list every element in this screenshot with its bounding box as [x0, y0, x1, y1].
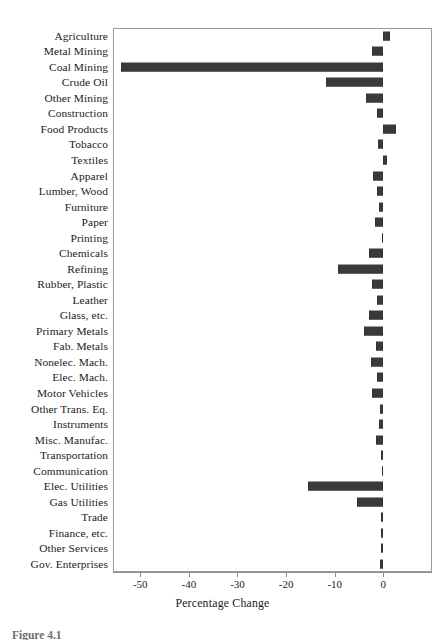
- bar: [376, 435, 384, 444]
- category-label: Rubber, Plastic: [37, 278, 108, 290]
- bar: [375, 218, 384, 227]
- category-label: Nonelec. Mach.: [34, 356, 108, 368]
- bar-row: Rubber, Plastic: [0, 277, 445, 293]
- bar-row: Crude Oil: [0, 75, 445, 91]
- category-label: Other Services: [39, 542, 108, 554]
- bar-row: Construction: [0, 106, 445, 122]
- bar: [366, 93, 383, 102]
- bar-row: Other Services: [0, 541, 445, 557]
- bar-row: Transportation: [0, 447, 445, 463]
- category-label: Other Trans. Eq.: [31, 402, 108, 414]
- bar: [381, 513, 383, 522]
- x-tick-label: -30: [230, 578, 245, 590]
- category-label: Elec. Mach.: [52, 371, 108, 383]
- bar: [377, 187, 383, 196]
- bar: [121, 62, 383, 71]
- category-label: Metal Mining: [44, 45, 108, 57]
- bar-row: Lumber, Wood: [0, 183, 445, 199]
- category-label: Communication: [33, 464, 108, 476]
- bar: [380, 559, 383, 568]
- bar: [357, 497, 384, 506]
- x-tick: [335, 572, 336, 577]
- bar-row: Communication: [0, 463, 445, 479]
- bar-row: Elec. Utilities: [0, 478, 445, 494]
- bar: [369, 311, 383, 320]
- bar: [376, 342, 383, 351]
- category-label: Apparel: [71, 169, 108, 181]
- bar-row: Furniture: [0, 199, 445, 215]
- bar: [379, 202, 384, 211]
- bar: [383, 31, 389, 40]
- category-label: Chemicals: [59, 247, 108, 259]
- x-axis-title: Percentage Change: [0, 596, 445, 611]
- bar: [381, 544, 383, 553]
- bar-row: Tobacco: [0, 137, 445, 153]
- bar: [381, 451, 383, 460]
- bar: [382, 233, 384, 242]
- category-label: Other Mining: [44, 92, 108, 104]
- bar-row: Other Mining: [0, 90, 445, 106]
- category-label: Gas Utilities: [49, 495, 108, 507]
- category-label: Crude Oil: [62, 76, 108, 88]
- x-tick: [237, 572, 238, 577]
- x-tick-label: -50: [133, 578, 148, 590]
- bar-row: Metal Mining: [0, 44, 445, 60]
- x-tick-label: -40: [182, 578, 197, 590]
- bar-row: Textiles: [0, 152, 445, 168]
- category-label: Furniture: [65, 200, 108, 212]
- bar-row: Finance, etc.: [0, 525, 445, 541]
- category-label: Agriculture: [54, 30, 108, 42]
- figure-container: AgricultureMetal MiningCoal MiningCrude …: [0, 0, 445, 640]
- category-label: Leather: [73, 294, 108, 306]
- bar-row: Food Products: [0, 121, 445, 137]
- category-label: Refining: [67, 262, 108, 274]
- bar: [377, 295, 384, 304]
- bar-row: Primary Metals: [0, 323, 445, 339]
- x-tick: [140, 572, 141, 577]
- bar: [383, 124, 395, 133]
- figure-caption: Figure 4.1: [12, 629, 62, 640]
- bar: [371, 357, 384, 366]
- x-tick: [383, 572, 384, 577]
- bar-rows: AgricultureMetal MiningCoal MiningCrude …: [0, 28, 445, 572]
- bar: [373, 171, 384, 180]
- category-label: Tobacco: [69, 138, 108, 150]
- bar-row: Instruments: [0, 416, 445, 432]
- bar: [326, 78, 383, 87]
- category-label: Finance, etc.: [49, 527, 108, 539]
- bar-row: Elec. Mach.: [0, 370, 445, 386]
- bar: [308, 482, 383, 491]
- bar: [364, 326, 383, 335]
- bar-row: Apparel: [0, 168, 445, 184]
- category-label: Textiles: [71, 154, 108, 166]
- x-tick-label: -10: [327, 578, 342, 590]
- bar-row: Trade: [0, 509, 445, 525]
- category-label: Instruments: [53, 418, 108, 430]
- bar-row: Chemicals: [0, 245, 445, 261]
- bar-row: Gas Utilities: [0, 494, 445, 510]
- bar: [377, 109, 383, 118]
- bar: [369, 249, 384, 258]
- category-label: Lumber, Wood: [39, 185, 108, 197]
- bar-row: Nonelec. Mach.: [0, 354, 445, 370]
- bar-row: Fab. Metals: [0, 339, 445, 355]
- category-label: Motor Vehicles: [37, 387, 108, 399]
- bar: [372, 47, 383, 56]
- category-label: Paper: [82, 216, 108, 228]
- bar-row: Motor Vehicles: [0, 385, 445, 401]
- bar: [379, 420, 384, 429]
- bar: [372, 388, 384, 397]
- x-tick-label: -20: [279, 578, 294, 590]
- bar: [338, 264, 383, 273]
- bar-row: Agriculture: [0, 28, 445, 44]
- x-tick-label: 0: [381, 578, 387, 590]
- category-label: Construction: [48, 107, 108, 119]
- category-label: Gov. Enterprises: [31, 558, 108, 570]
- category-label: Trade: [81, 511, 108, 523]
- bar-row: Glass, etc.: [0, 308, 445, 324]
- bar: [378, 140, 383, 149]
- bar: [381, 528, 383, 537]
- bar-row: Gov. Enterprises: [0, 556, 445, 572]
- bar-row: Misc. Manufac.: [0, 432, 445, 448]
- category-label: Food Products: [41, 123, 108, 135]
